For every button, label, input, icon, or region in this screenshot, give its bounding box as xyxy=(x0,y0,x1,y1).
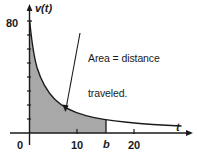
velocity-time-figure: 80 v(t) 0 10 b 20 t Area = distance trav… xyxy=(0,0,197,159)
x-tick-label-10: 10 xyxy=(71,139,83,151)
area-annotation-text: Area = distance traveled. xyxy=(88,29,160,123)
annotation-arrow-line xyxy=(67,33,81,106)
y-axis-title: v(t) xyxy=(35,2,52,14)
x-axis-title: t xyxy=(176,121,180,133)
y-axis-arrowhead xyxy=(27,4,33,11)
x-tick-label-b: b xyxy=(103,138,110,150)
x-axis-arrowhead xyxy=(186,130,193,136)
x-tick-label-0: 0 xyxy=(17,139,23,151)
y-tick-label-80: 80 xyxy=(6,17,18,29)
x-tick-label-20: 20 xyxy=(128,139,140,151)
area-annotation-line-2: traveled. xyxy=(88,88,160,100)
area-annotation-line-1: Area = distance xyxy=(88,53,160,65)
